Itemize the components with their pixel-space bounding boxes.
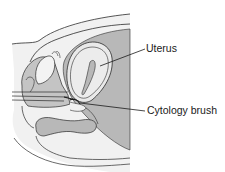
anatomical-diagram: [0, 0, 225, 172]
uterus-label: Uterus: [146, 43, 177, 54]
cytology-brush-label: Cytology brush: [147, 105, 217, 116]
